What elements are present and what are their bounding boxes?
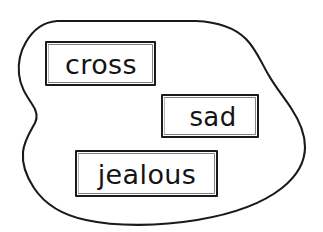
word-label-sad: sad bbox=[189, 102, 236, 132]
word-box-cross: cross bbox=[46, 42, 155, 85]
word-box-sad: sad bbox=[162, 95, 258, 137]
word-box-jealous: jealous bbox=[76, 151, 217, 196]
word-label-cross: cross bbox=[65, 49, 137, 80]
diagram-canvas: cross sad jealous bbox=[0, 0, 323, 232]
set-diagram: cross sad jealous bbox=[0, 0, 323, 232]
word-label-jealous: jealous bbox=[97, 159, 197, 190]
